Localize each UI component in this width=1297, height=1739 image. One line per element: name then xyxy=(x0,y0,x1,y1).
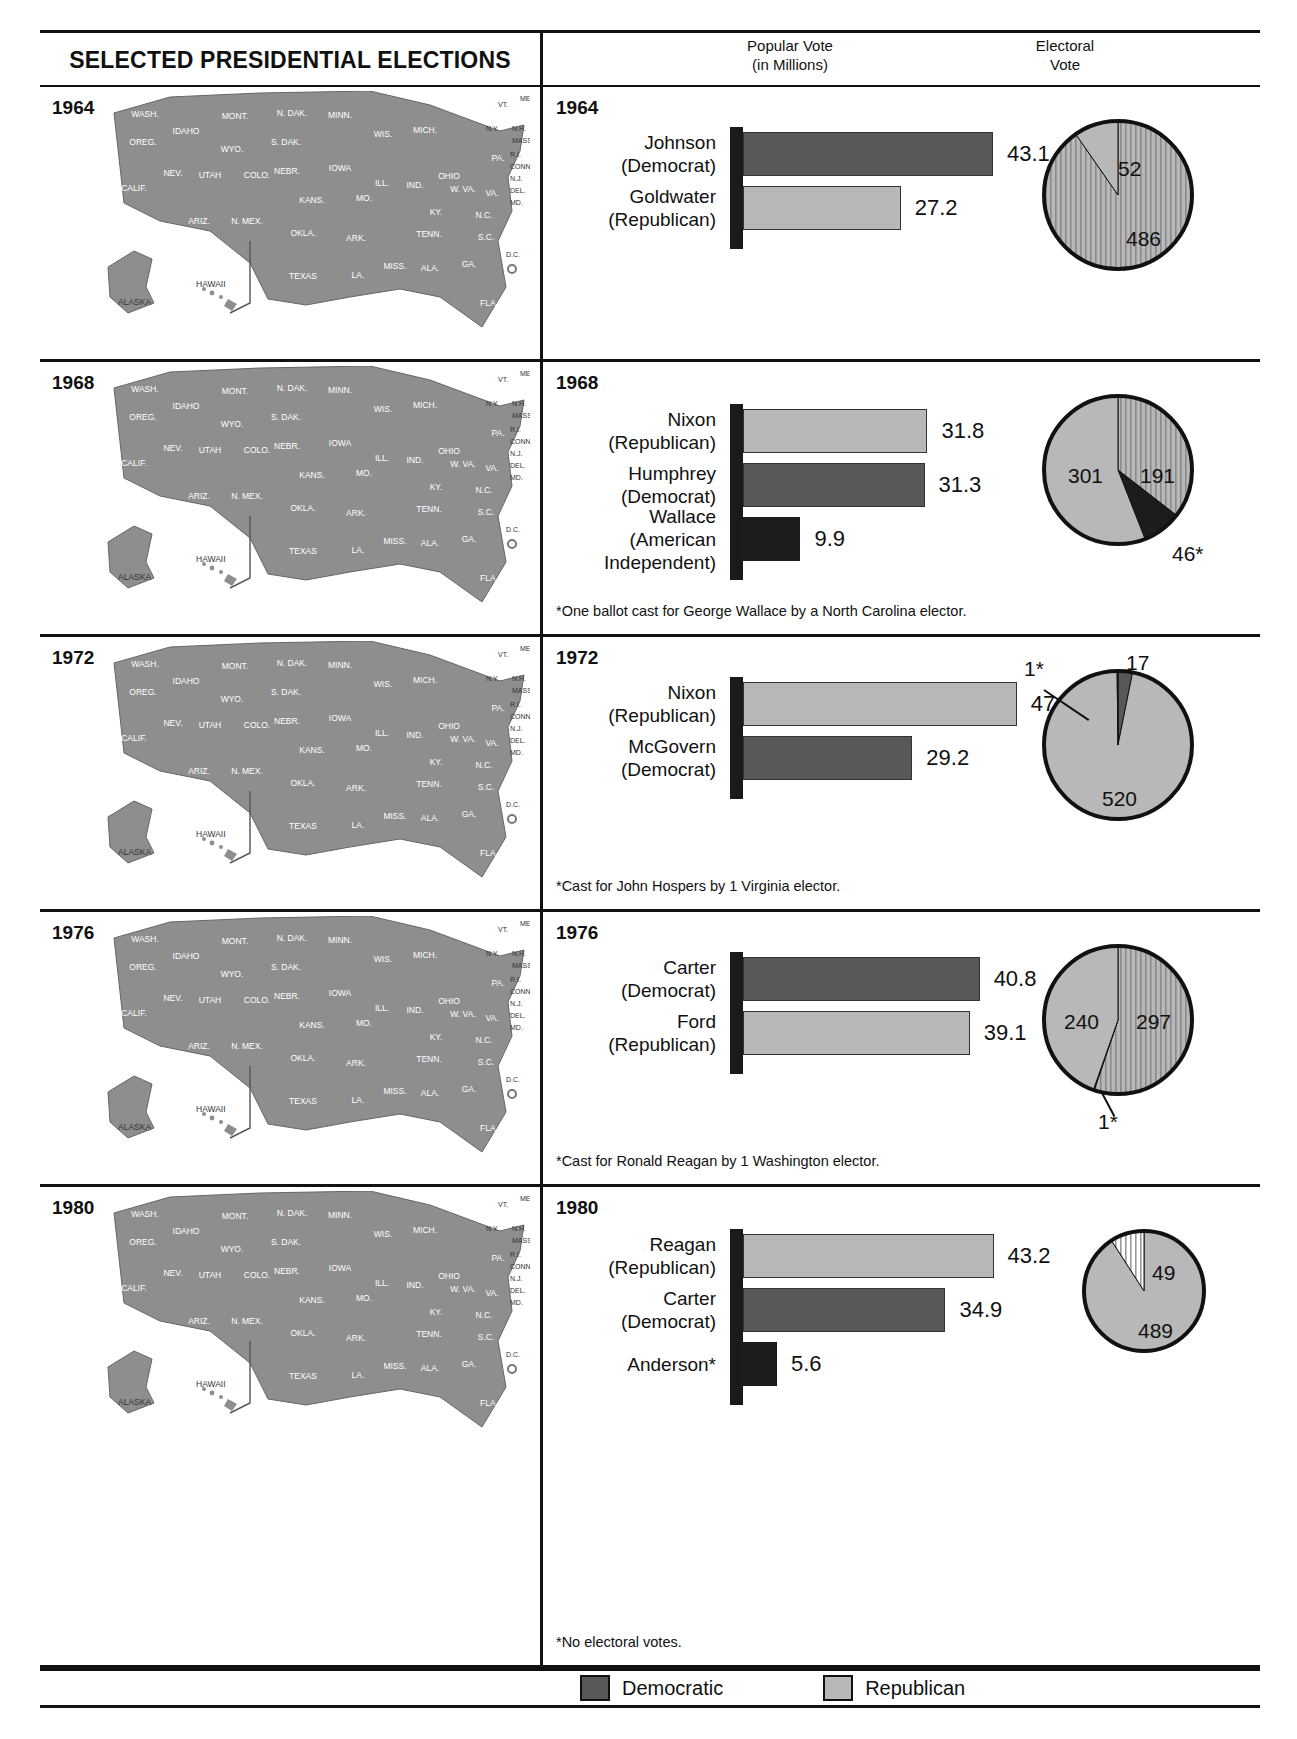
map-label-nmex: N. MEX. xyxy=(231,216,263,226)
electoral-vote-header: Electoral Vote xyxy=(940,36,1190,74)
electoral-vote-label: 1* xyxy=(1098,1110,1118,1134)
map-label-la: LA. xyxy=(352,1370,365,1380)
map-label-idaho: IDAHO xyxy=(173,401,200,411)
map-label-va: VA. xyxy=(485,1288,498,1298)
map-label-wis: WIS. xyxy=(374,129,392,139)
candidate-label: Johnson (Democrat) xyxy=(506,131,716,177)
map-label-pa: PA. xyxy=(491,978,504,988)
democratic-swatch-icon xyxy=(580,1675,610,1701)
map-label-ariz: ARIZ. xyxy=(188,216,210,226)
map-label-wash: WASH. xyxy=(131,109,159,119)
map-label-ariz: ARIZ. xyxy=(188,1316,210,1326)
map-label-ohio: OHIO xyxy=(438,1271,460,1281)
map-label-la: LA. xyxy=(352,270,365,280)
electoral-pie-container: 2972401* xyxy=(1040,942,1196,1098)
map-label-wva: W. VA. xyxy=(450,1284,475,1294)
popular-vote-header-line1: Popular Vote xyxy=(660,36,920,55)
map-label-hawaii: HAWAII xyxy=(196,829,226,839)
map-label-ariz: ARIZ. xyxy=(188,1041,210,1051)
map-label-utah: UTAH xyxy=(199,720,222,730)
map-label-calif: CALIF. xyxy=(121,1008,147,1018)
map-label-wyo: WYO. xyxy=(221,419,244,429)
map-label-sc: S.C. xyxy=(478,232,495,242)
popular-vote-bar xyxy=(743,1342,777,1386)
map-label-calif: CALIF. xyxy=(121,458,147,468)
map-label-iowa: IOWA xyxy=(329,163,352,173)
map-label-pa: PA. xyxy=(491,153,504,163)
year-label-left: 1980 xyxy=(52,1197,94,1219)
popular-vote-header: Popular Vote (in Millions) xyxy=(660,36,920,74)
popular-vote-value: 31.3 xyxy=(939,472,982,498)
map-label-pa: PA. xyxy=(491,428,504,438)
map-label-va: VA. xyxy=(485,738,498,748)
map-label-mont: MONT. xyxy=(222,386,248,396)
map-label-oreg: OREG. xyxy=(129,687,156,697)
map-label-nmex: N. MEX. xyxy=(231,491,263,501)
map-label-hawaii: HAWAII xyxy=(196,279,226,289)
map-label-alaska: ALASKA xyxy=(118,1397,151,1407)
map-label-la: LA. xyxy=(352,1095,365,1105)
map-label-va: VA. xyxy=(485,1013,498,1023)
map-label-okla: OKLA. xyxy=(290,1053,315,1063)
electoral-vote-header-line2: Vote xyxy=(940,55,1190,74)
map-label-nebr: NEBR. xyxy=(274,1266,300,1276)
map-label-mont: MONT. xyxy=(222,1211,248,1221)
map-label-texas: TEXAS xyxy=(289,1371,317,1381)
map-label-miss: MISS. xyxy=(383,261,406,271)
electoral-vote-label: 486 xyxy=(1126,227,1161,251)
year-label-left: 1972 xyxy=(52,647,94,669)
map-label-iowa: IOWA xyxy=(329,1263,352,1273)
electoral-pie-container: 48652 xyxy=(1040,117,1196,273)
map-label-nev: NEV. xyxy=(163,718,182,728)
map-label-va: VA. xyxy=(485,188,498,198)
map-label-me: ME. xyxy=(520,920,530,927)
legend-item-democratic: Democratic xyxy=(580,1675,723,1701)
map-label-nebr: NEBR. xyxy=(274,991,300,1001)
map-label-iowa: IOWA xyxy=(329,713,352,723)
map-label-mich: MICH. xyxy=(413,125,437,135)
map-label-ala: ALA. xyxy=(421,1088,439,1098)
electoral-pie-container: 48949 xyxy=(1080,1227,1208,1355)
map-label-ky: KY. xyxy=(430,1307,443,1317)
electoral-vote-header-line1: Electoral xyxy=(940,36,1190,55)
popular-vote-value: 31.8 xyxy=(941,418,984,444)
candidate-label: Anderson* xyxy=(506,1353,716,1376)
map-label-tenn: TENN. xyxy=(416,504,442,514)
map-label-ohio: OHIO xyxy=(438,171,460,181)
popular-vote-value: 5.6 xyxy=(791,1351,822,1377)
candidate-label: Carter (Democrat) xyxy=(506,1287,716,1333)
popular-vote-value: 43.2 xyxy=(1008,1243,1051,1269)
map-label-nev: NEV. xyxy=(163,993,182,1003)
map-label-kans: KANS. xyxy=(299,195,325,205)
map-label-dc: D.C. xyxy=(506,801,520,808)
bar-row: Humphrey (Democrat) 31.3 xyxy=(730,458,1050,512)
map-label-nebr: NEBR. xyxy=(274,716,300,726)
map-label-me: ME. xyxy=(520,1195,530,1202)
map-label-colo: COLO. xyxy=(244,995,270,1005)
candidate-label: Wallace (American Independent) xyxy=(506,505,716,574)
electoral-vote-label: 240 xyxy=(1064,1010,1099,1034)
map-label-tenn: TENN. xyxy=(416,1329,442,1339)
map-label-minn: MINN. xyxy=(328,660,352,670)
popular-vote-bar xyxy=(743,186,901,230)
popular-vote-bar xyxy=(743,1011,970,1055)
map-label-dc: D.C. xyxy=(506,1076,520,1083)
map-label-ndak: N. DAK. xyxy=(277,383,308,393)
map-label-oreg: OREG. xyxy=(129,1237,156,1247)
map-label-wash: WASH. xyxy=(131,659,159,669)
map-label-nebr: NEBR. xyxy=(274,441,300,451)
map-label-calif: CALIF. xyxy=(121,183,147,193)
map-label-wash: WASH. xyxy=(131,1209,159,1219)
map-container: WASH.OREG.CALIF.NEV.IDAHOMONT.WYO.UTAHAR… xyxy=(100,1191,530,1669)
map-label-ind: IND. xyxy=(407,1005,424,1015)
electoral-vote-label: 191 xyxy=(1140,464,1175,488)
bar-row: Carter (Democrat) 34.9 xyxy=(730,1283,1050,1337)
map-label-vt: VT. xyxy=(498,1201,508,1208)
map-label-me: ME. xyxy=(520,370,530,377)
popular-vote-value: 40.8 xyxy=(994,966,1037,992)
map-label-va: VA. xyxy=(485,463,498,473)
map-label-ohio: OHIO xyxy=(438,996,460,1006)
map-label-ny: N.Y. xyxy=(486,675,499,682)
map-label-vt: VT. xyxy=(498,651,508,658)
map-container: WASH.OREG.CALIF.NEV.IDAHOMONT.WYO.UTAHAR… xyxy=(100,91,530,363)
